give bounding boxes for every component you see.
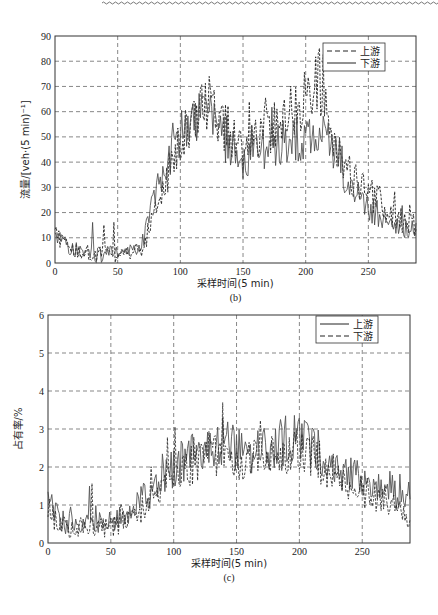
- axes-frame: [48, 315, 410, 543]
- y-tick-label: 1: [39, 500, 44, 511]
- y-axis-label: 占有率/%: [12, 408, 24, 451]
- series-line-0: [48, 415, 410, 533]
- x-tick-label: 250: [355, 546, 370, 557]
- x-tick-label: 200: [292, 546, 307, 557]
- y-tick-label: 5: [39, 348, 44, 359]
- legend-label: 上游: [353, 318, 373, 330]
- x-tick-label: 150: [229, 546, 244, 557]
- y-tick-label: 2: [39, 462, 44, 473]
- plot-area: [48, 315, 410, 543]
- legend-label: 下游: [353, 330, 373, 342]
- y-tick-label: 4: [39, 386, 44, 397]
- y-tick-label: 6: [39, 310, 44, 321]
- y-tick-label: 0: [39, 538, 44, 549]
- figure-caption: (c): [223, 572, 234, 584]
- x-axis-label: 采样时间(5 min): [191, 557, 267, 569]
- x-tick-label: 50: [106, 546, 116, 557]
- x-tick-label: 0: [46, 546, 51, 557]
- legend: 上游下游: [316, 316, 378, 343]
- x-tick-label: 100: [166, 546, 181, 557]
- y-tick-label: 3: [39, 424, 44, 435]
- chart-occupancy: 0123456050100150200250采样时间(5 min)占有率/%(c…: [0, 0, 438, 615]
